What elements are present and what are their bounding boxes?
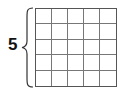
square-grid	[35, 8, 117, 87]
grid-cell	[36, 40, 52, 55]
grid-cell	[68, 40, 84, 55]
curly-brace-icon	[21, 7, 35, 88]
grid-cell	[36, 71, 52, 86]
grid-cell	[52, 55, 68, 70]
grid-cell	[36, 24, 52, 39]
grid-cell	[100, 9, 116, 24]
grid-cell	[68, 71, 84, 86]
grid-cell	[100, 40, 116, 55]
grid-cell	[84, 55, 100, 70]
grid-cell	[100, 55, 116, 70]
grid-cell	[84, 71, 100, 86]
grid-cell	[52, 9, 68, 24]
grid-cell	[84, 40, 100, 55]
grid-cell	[36, 9, 52, 24]
grid-cell	[68, 24, 84, 39]
grid-cell	[100, 71, 116, 86]
row-count-label: 5	[8, 35, 17, 55]
grid-cell	[84, 9, 100, 24]
grid-cell	[68, 55, 84, 70]
grid-cell	[84, 24, 100, 39]
grid-cell	[52, 24, 68, 39]
grid-cell	[68, 9, 84, 24]
grid-cell	[100, 24, 116, 39]
grid-cell	[52, 40, 68, 55]
grid-cell	[52, 71, 68, 86]
grid-cell	[36, 55, 52, 70]
